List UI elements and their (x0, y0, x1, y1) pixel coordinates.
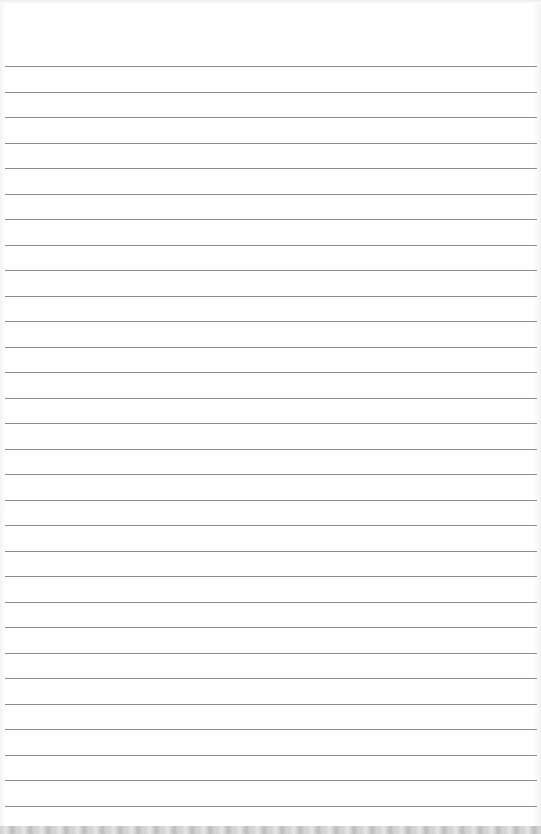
ruled-line (5, 500, 537, 501)
ruled-line (5, 168, 537, 169)
ruled-line (5, 627, 537, 628)
paper-bottom-edge (0, 826, 541, 834)
ruled-line (5, 806, 537, 807)
ruled-line (5, 92, 537, 93)
ruled-line (5, 755, 537, 756)
ruled-line (5, 372, 537, 373)
ruled-line (5, 296, 537, 297)
ruled-line (5, 474, 537, 475)
ruled-line (5, 398, 537, 399)
ruled-line (5, 449, 537, 450)
ruled-line (5, 219, 537, 220)
ruled-line (5, 143, 537, 144)
ruled-line (5, 347, 537, 348)
ruled-line (5, 525, 537, 526)
ruled-line (5, 321, 537, 322)
ruled-line (5, 194, 537, 195)
ruled-line (5, 729, 537, 730)
ruled-line (5, 551, 537, 552)
ruled-line (5, 576, 537, 577)
ruled-line (5, 653, 537, 654)
ruled-line (5, 678, 537, 679)
ruled-line (5, 270, 537, 271)
ruled-line (5, 423, 537, 424)
ruled-line (5, 602, 537, 603)
paper-top-edge (0, 0, 541, 4)
ruled-line (5, 704, 537, 705)
lined-paper-sheet (0, 0, 541, 834)
ruled-line (5, 66, 537, 67)
ruled-line (5, 117, 537, 118)
ruled-line (5, 780, 537, 781)
ruled-line (5, 245, 537, 246)
